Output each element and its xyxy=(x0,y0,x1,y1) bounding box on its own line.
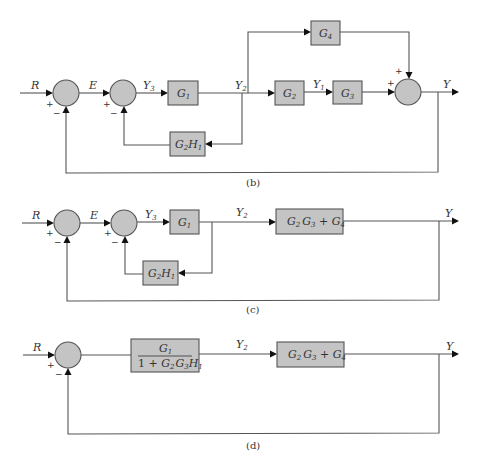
arrow-icon xyxy=(63,106,70,113)
arrow-icon xyxy=(406,72,413,79)
arrow-icon xyxy=(270,351,277,358)
sign-minus: − xyxy=(53,108,61,118)
signal-y3: Y3 xyxy=(145,208,157,222)
sign-plus: + xyxy=(46,228,54,238)
summing-junction-1 xyxy=(55,342,81,368)
caption-d: (d) xyxy=(246,440,260,451)
signal-r: R xyxy=(32,341,41,354)
sign-minus: − xyxy=(111,237,119,247)
signal-y2: Y2 xyxy=(236,338,248,352)
arrow-icon xyxy=(104,220,111,227)
block-combined-label: G2G3 + G4 xyxy=(288,348,346,362)
signal-r: R xyxy=(31,209,40,222)
summing-junction-3 xyxy=(395,79,421,105)
arrow-icon xyxy=(205,141,212,148)
diagram-c: R + − E + − Y3 G1 Y2 G2H1 G2G3 + G4 Y (c… xyxy=(22,206,459,315)
arrow-icon xyxy=(326,89,333,96)
arrow-icon xyxy=(46,90,53,97)
caption-c: (c) xyxy=(246,304,260,315)
signal-y2: Y2 xyxy=(235,79,247,93)
sign-minus: − xyxy=(55,369,63,379)
signal-y: Y xyxy=(446,340,455,353)
arrow-icon xyxy=(452,89,459,96)
arrow-icon xyxy=(269,219,276,226)
arrow-icon xyxy=(178,270,185,277)
arrow-icon xyxy=(452,218,459,225)
arrow-icon xyxy=(64,236,71,243)
signal-r: R xyxy=(30,79,39,92)
signal-y1: Y1 xyxy=(313,78,325,92)
diagram-b: R + − E + − Y3 G1 Y2 G4 G2 Y1 xyxy=(20,21,459,188)
sign-minus: − xyxy=(110,108,118,118)
signal-y: Y xyxy=(443,78,452,91)
sign-plus: + xyxy=(395,66,403,76)
sign-plus: + xyxy=(47,360,55,370)
arrow-icon xyxy=(304,29,311,36)
sign-minus: − xyxy=(54,237,62,247)
arrow-icon xyxy=(65,368,72,375)
signal-e: E xyxy=(88,79,97,92)
summing-junction-2 xyxy=(111,210,137,236)
block-combined-label: G2G3 + G4 xyxy=(287,215,345,229)
caption-b: (b) xyxy=(246,177,260,188)
arrow-icon xyxy=(122,236,129,243)
arrow-icon xyxy=(268,90,275,97)
diagram-d: R + − G1 1 + G2G3H1 Y2 G2G3 + G4 Y (d) xyxy=(23,338,459,451)
summing-junction-2 xyxy=(110,80,136,106)
arrow-icon xyxy=(48,352,55,359)
summing-junction-1 xyxy=(53,80,79,106)
arrow-icon xyxy=(161,90,168,97)
signal-y2: Y2 xyxy=(236,206,248,220)
arrow-icon xyxy=(163,219,170,226)
arrow-icon xyxy=(47,220,54,227)
arrow-icon xyxy=(388,89,395,96)
arrow-icon xyxy=(103,90,110,97)
signal-y3: Y3 xyxy=(143,79,155,93)
arrow-icon xyxy=(121,106,128,113)
sign-plus: + xyxy=(387,78,395,88)
summing-junction-1 xyxy=(54,210,80,236)
signal-e: E xyxy=(89,209,98,222)
